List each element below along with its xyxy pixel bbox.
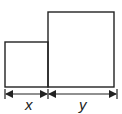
dimension-label-y: y [78, 96, 88, 113]
tall-rectangle [48, 12, 114, 87]
dimension-label-x: x [24, 96, 33, 113]
diagram-canvas: x y [0, 0, 122, 114]
small-rectangle [5, 42, 48, 87]
